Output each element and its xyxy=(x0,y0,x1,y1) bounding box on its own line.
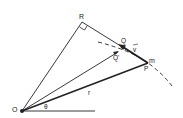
label-O: O xyxy=(12,106,18,113)
label-Q: Q xyxy=(121,37,126,45)
label-r: r xyxy=(88,89,91,96)
label-Q-prime: Q' xyxy=(113,54,119,62)
orbital-geometry-diagram: R Q Q' v m P O θ r xyxy=(0,0,183,118)
label-v: v xyxy=(133,46,137,53)
line-OQprime xyxy=(22,52,118,111)
label-R: R xyxy=(79,13,84,20)
v-vector-bar xyxy=(133,44,138,45)
right-angle-mark xyxy=(80,26,88,30)
line-OP-r xyxy=(22,63,148,111)
label-theta: θ xyxy=(44,103,48,110)
line-OR xyxy=(22,22,82,111)
label-P: P xyxy=(144,65,148,72)
origin-point xyxy=(20,109,24,113)
label-m: m xyxy=(149,57,155,64)
